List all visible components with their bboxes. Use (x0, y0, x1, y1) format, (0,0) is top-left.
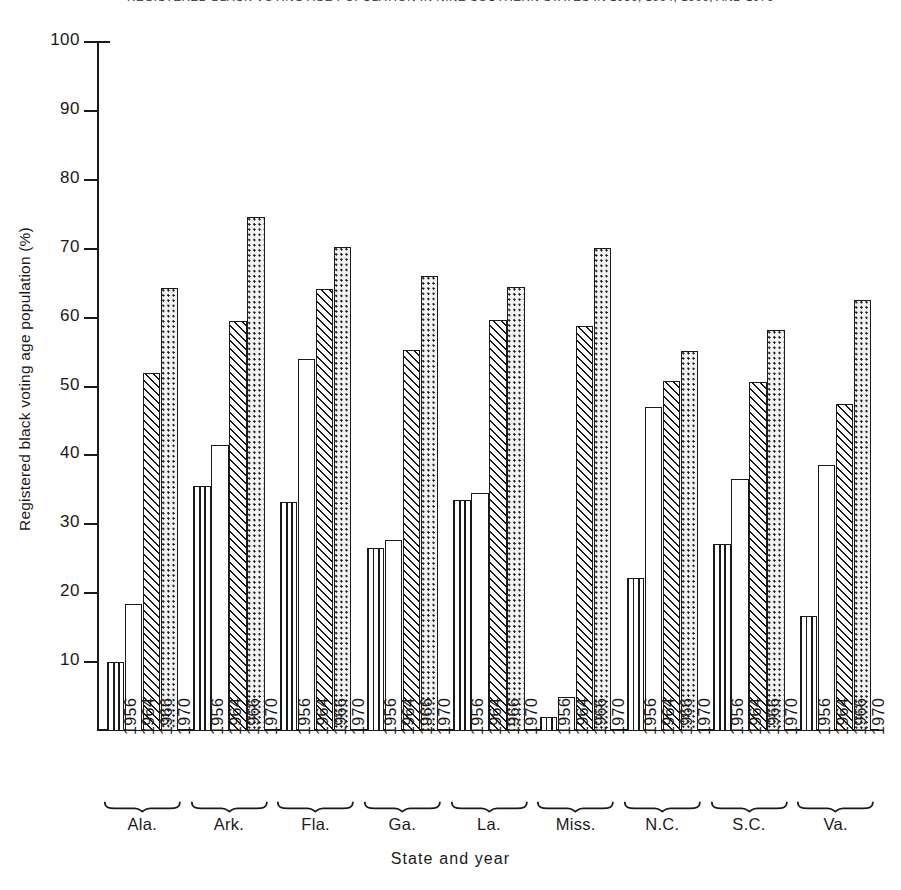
y-axis-tick-labels: 102030405060708090100 (0, 0, 80, 890)
state-label: Va. (797, 815, 874, 834)
x-year-label-miss-1970: 1970 (610, 671, 628, 735)
x-year-label-ark-1966: 1966 (245, 671, 263, 735)
brace-icon (104, 800, 181, 813)
x-year-label-nc-1970: 1970 (696, 671, 714, 735)
state-label: La. (451, 815, 528, 834)
bar-miss-1970 (594, 248, 612, 731)
brace-icon (624, 800, 701, 813)
y-tick-50 (84, 386, 97, 388)
bar-group-sc (706, 42, 793, 731)
bar-va-1956 (800, 616, 818, 731)
state-group-ga: Ga. (364, 800, 441, 834)
brace-icon (451, 800, 528, 813)
x-year-label-nc-1956: 1956 (642, 671, 660, 735)
state-label: S.C. (711, 815, 788, 834)
x-axis-title: State and year (0, 850, 901, 868)
state-label: Ark. (191, 815, 268, 834)
state-group-ala: Ala. (104, 800, 181, 834)
x-year-label-ark-1970: 1970 (263, 671, 281, 735)
bar-group-ark (186, 42, 273, 731)
brace-icon (711, 800, 788, 813)
x-year-label-la-1966: 1966 (505, 671, 523, 735)
state-group-fla: Fla. (277, 800, 354, 834)
x-year-label-miss-1966: 1966 (592, 671, 610, 735)
state-group-nc: N.C. (624, 800, 701, 834)
state-label: Fla. (277, 815, 354, 834)
chart-title: REGISTERED BLACK VOTING AGE POPULATION I… (0, 0, 901, 3)
bar-series-container (99, 42, 879, 731)
x-year-label-la-1964: 1964 (487, 671, 505, 735)
y-tick-60 (84, 317, 97, 319)
y-tick-90 (84, 110, 97, 112)
y-tick-70 (84, 248, 97, 250)
x-year-label-sc-1966: 1966 (765, 671, 783, 735)
state-label: Ala. (104, 815, 181, 834)
x-year-label-va-1970: 1970 (870, 671, 888, 735)
brace-icon (191, 800, 268, 813)
bar-ark-1966 (229, 321, 247, 731)
x-year-label-miss-1964: 1964 (574, 671, 592, 735)
x-year-label-fla-1970: 1970 (350, 671, 368, 735)
y-tick-10 (84, 661, 97, 663)
y-tick-30 (84, 523, 97, 525)
x-year-label-fla-1964: 1964 (314, 671, 332, 735)
bar-group-nc (619, 42, 706, 731)
y-axis-title: Registered black voting age population (… (16, 99, 34, 659)
x-year-label-fla-1966: 1966 (332, 671, 350, 735)
x-year-label-ga-1966: 1966 (418, 671, 436, 735)
state-group-ark: Ark. (191, 800, 268, 834)
brace-icon (364, 800, 441, 813)
brace-icon (537, 800, 614, 813)
x-year-label-miss-1956: 1956 (556, 671, 574, 735)
state-group-la: La. (451, 800, 528, 834)
bar-group-la (446, 42, 533, 731)
bar-fla-1956 (280, 502, 298, 731)
state-label: N.C. (624, 815, 701, 834)
x-year-label-va-1956: 1956 (816, 671, 834, 735)
y-tick-40 (84, 454, 97, 456)
x-year-label-ark-1956: 1956 (209, 671, 227, 735)
state-label: Ga. (364, 815, 441, 834)
bar-ark-1970 (247, 217, 265, 731)
x-year-label-ark-1964: 1964 (227, 671, 245, 735)
brace-icon (797, 800, 874, 813)
bar-ala-1970 (161, 288, 179, 731)
y-tick-20 (84, 592, 97, 594)
x-year-label-nc-1964: 1964 (660, 671, 678, 735)
bar-group-va (792, 42, 879, 731)
state-group-sc: S.C. (711, 800, 788, 834)
state-label: Miss. (537, 815, 614, 834)
bar-group-ala (99, 42, 186, 731)
x-year-label-ala-1956: 1956 (122, 671, 140, 735)
x-year-label-ga-1970: 1970 (436, 671, 454, 735)
bar-group-miss (532, 42, 619, 731)
state-group-miss: Miss. (537, 800, 614, 834)
x-year-label-ga-1964: 1964 (400, 671, 418, 735)
x-year-label-la-1970: 1970 (523, 671, 541, 735)
x-year-label-va-1964: 1964 (834, 671, 852, 735)
bar-la-1970 (507, 287, 525, 731)
bar-group-fla (272, 42, 359, 731)
brace-icon (277, 800, 354, 813)
x-year-label-ga-1956: 1956 (382, 671, 400, 735)
bar-chart: REGISTERED BLACK VOTING AGE POPULATION I… (0, 0, 901, 890)
x-year-label-sc-1956: 1956 (729, 671, 747, 735)
bar-fla-1966 (316, 289, 334, 731)
y-tick-label-100: 100 (22, 30, 80, 50)
bar-ga-1970 (421, 276, 439, 731)
x-year-label-sc-1970: 1970 (783, 671, 801, 735)
bar-va-1970 (854, 300, 872, 731)
bar-la-1966 (489, 320, 507, 731)
x-year-label-ala-1970: 1970 (176, 671, 194, 735)
x-axis-year-labels: 1956196419661970195619641966197019561964… (99, 733, 879, 799)
bar-miss-1956 (540, 717, 558, 731)
x-year-label-sc-1964: 1964 (747, 671, 765, 735)
x-year-label-fla-1956: 1956 (296, 671, 314, 735)
x-year-label-la-1956: 1956 (469, 671, 487, 735)
bar-fla-1970 (334, 247, 352, 731)
y-tick-80 (84, 179, 97, 181)
x-year-label-ala-1964: 1964 (140, 671, 158, 735)
x-year-label-nc-1966: 1966 (678, 671, 696, 735)
bar-group-ga (359, 42, 446, 731)
y-tick-100 (84, 41, 97, 43)
